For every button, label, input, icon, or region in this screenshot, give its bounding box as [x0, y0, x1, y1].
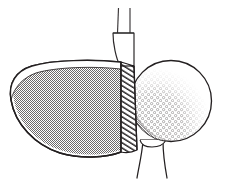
club-face: [121, 62, 137, 152]
illustration-canvas: [0, 0, 226, 189]
golf-driver-illustration: Golf driver clubhead striking a teed gol…: [0, 0, 226, 189]
